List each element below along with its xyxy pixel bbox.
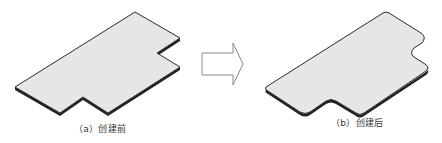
plate-after (265, 12, 428, 118)
caption-after: （b）创建后 (331, 116, 384, 129)
plate-after-face (265, 12, 427, 115)
plate-before-face (15, 12, 180, 113)
caption-before: （a）创建前 (74, 122, 126, 135)
transform-arrow-icon (202, 43, 243, 85)
plate-before (15, 12, 180, 116)
